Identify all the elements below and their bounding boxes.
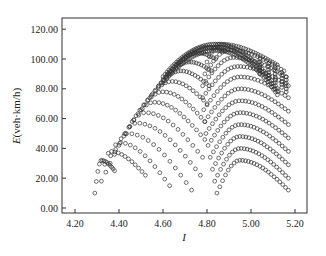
data-point: [287, 163, 291, 167]
data-points: [93, 42, 290, 195]
x-tick-label: 4.20: [66, 218, 84, 229]
data-point: [147, 111, 151, 115]
data-point: [217, 156, 221, 160]
data-point: [280, 131, 284, 135]
data-point: [113, 153, 117, 157]
data-point: [153, 165, 157, 169]
y-axis: 0.0020.0040.0060.0080.00100.00120.00: [31, 24, 67, 214]
data-point: [179, 173, 183, 177]
data-point: [225, 157, 229, 161]
data-point: [191, 107, 195, 111]
data-point: [130, 160, 134, 164]
data-point: [161, 116, 165, 120]
data-point: [130, 132, 134, 136]
data-point: [133, 146, 137, 150]
data-point: [174, 108, 178, 112]
data-point: [287, 123, 291, 127]
data-point: [283, 120, 287, 124]
data-point: [186, 138, 190, 142]
data-point: [168, 138, 172, 142]
data-point: [222, 120, 226, 124]
data-point: [143, 154, 147, 158]
data-point: [212, 94, 216, 98]
x-axis-label: I: [181, 231, 187, 243]
data-point: [188, 161, 192, 165]
data-point: [221, 135, 225, 139]
data-point: [201, 155, 205, 159]
data-point: [211, 167, 215, 171]
data-point: [140, 170, 144, 174]
data-point: [123, 155, 127, 159]
data-point: [176, 95, 180, 99]
data-point: [209, 138, 213, 142]
data-point: [201, 84, 205, 88]
data-point: [221, 109, 225, 113]
data-point: [226, 168, 230, 172]
data-point: [96, 170, 100, 174]
data-point: [226, 117, 230, 121]
data-point: [184, 84, 188, 88]
data-point: [161, 102, 165, 106]
data-point: [157, 148, 161, 152]
data-point: [224, 173, 228, 177]
data-point: [212, 150, 216, 154]
data-point: [137, 166, 141, 170]
data-point: [152, 143, 156, 147]
data-point: [227, 128, 231, 132]
data-point: [94, 180, 98, 184]
data-point: [223, 94, 227, 98]
data-point: [184, 100, 188, 104]
data-point: [203, 138, 207, 142]
data-point: [146, 139, 150, 143]
data-point: [109, 154, 113, 158]
data-point: [218, 140, 222, 144]
data-point: [168, 159, 172, 163]
x-tick-label: 5.00: [242, 218, 260, 229]
data-point: [222, 162, 226, 166]
data-point: [165, 90, 169, 94]
data-point: [226, 142, 230, 146]
data-point: [202, 108, 206, 112]
x-tick-label: 4.40: [110, 218, 128, 229]
data-point: [215, 90, 219, 94]
y-axis-label-unit: (veh·km/h): [10, 88, 23, 138]
data-point: [158, 130, 162, 134]
y-tick-label: 100.00: [31, 54, 59, 65]
data-point: [218, 185, 222, 189]
data-point: [161, 90, 165, 94]
data-point: [157, 91, 161, 95]
data-point: [198, 95, 202, 99]
y-tick-label: 40.00: [36, 143, 59, 154]
data-point: [280, 118, 284, 122]
data-point: [209, 98, 213, 102]
data-point: [148, 124, 152, 128]
data-point: [156, 114, 160, 118]
data-point: [280, 104, 284, 108]
data-point: [204, 132, 208, 136]
y-tick-label: 120.00: [31, 24, 59, 35]
data-point: [170, 106, 174, 110]
data-point: [183, 154, 187, 158]
data-point: [127, 157, 131, 161]
data-point: [209, 63, 213, 67]
data-point: [184, 181, 188, 185]
data-point: [273, 100, 277, 104]
data-point: [216, 129, 220, 133]
data-point: [152, 112, 156, 116]
data-point: [215, 145, 219, 149]
data-point: [213, 106, 217, 110]
data-point: [178, 149, 182, 153]
data-point: [207, 75, 211, 79]
data-point: [220, 151, 224, 155]
y-tick-label: 80.00: [36, 83, 59, 94]
data-point: [206, 144, 210, 148]
data-point: [280, 157, 284, 161]
data-point: [114, 148, 118, 152]
data-point: [208, 155, 212, 159]
data-point: [143, 122, 147, 126]
data-point: [201, 96, 205, 100]
y-tick-label: 20.00: [36, 173, 59, 184]
data-point: [204, 91, 208, 95]
data-point: [194, 61, 198, 65]
data-point: [173, 143, 177, 147]
